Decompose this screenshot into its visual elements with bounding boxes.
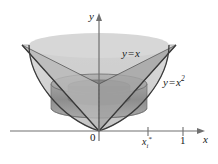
xi-superscript: *: [148, 135, 151, 142]
xi-subscript: i: [146, 142, 148, 149]
x-tick-label-one: 1: [180, 135, 186, 146]
yx-equals: =: [127, 47, 135, 59]
yx2-equals: =: [168, 76, 176, 88]
curve-label-y-equals-x: y=x: [122, 48, 140, 59]
curve-label-y-equals-x-squared: y=x2: [163, 75, 185, 88]
y-axis-arrow-icon: [96, 13, 102, 21]
x-tick-label-xi-star: xi*: [142, 136, 152, 150]
solid-of-revolution-figure: y x 0 xi* 1 y=x y=x2: [0, 0, 218, 164]
x-axis-label: x: [203, 134, 208, 145]
y-axis-label: y: [89, 11, 94, 22]
yx2-exponent: 2: [181, 74, 185, 83]
yx-rhs: x: [135, 47, 140, 59]
origin-label: 0: [90, 132, 96, 143]
